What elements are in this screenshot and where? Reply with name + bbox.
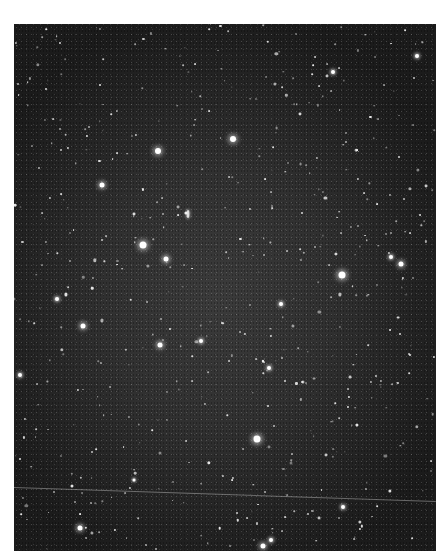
faint-star [88,126,90,128]
faint-star [41,36,43,38]
faint-star [290,462,293,465]
faint-star [202,168,204,170]
faint-star [161,197,163,199]
faint-star [79,513,81,515]
faint-star [102,104,104,106]
faint-star [307,513,309,515]
faint-star [355,149,358,152]
faint-star [264,178,266,180]
faint-star [123,446,125,448]
faint-star [65,58,67,60]
star [399,262,404,267]
faint-star [116,152,118,154]
faint-star [209,28,211,30]
faint-star [69,232,71,234]
faint-star [169,266,171,268]
star [55,297,59,301]
faint-star [410,232,412,234]
faint-star [314,246,316,248]
faint-star [272,532,274,534]
faint-star [17,83,19,85]
star [389,255,393,259]
faint-star [111,497,113,499]
faint-star [195,119,197,121]
faint-star [191,268,193,270]
faint-star [96,27,98,29]
star [261,544,266,549]
faint-star [228,257,230,259]
faint-star [99,404,101,406]
faint-star [239,331,241,333]
faint-star [334,44,336,46]
faint-star [292,77,294,79]
star [254,436,261,443]
faint-star [262,24,264,26]
faint-star [210,24,212,26]
faint-star [163,226,165,228]
faint-star [338,517,340,519]
faint-star [35,429,37,431]
faint-star [425,185,428,188]
faint-star [376,203,378,205]
faint-star [19,458,21,460]
faint-star [253,255,255,257]
faint-star [396,382,398,384]
faint-star [311,73,313,75]
faint-star [132,213,135,216]
faint-star [267,405,269,407]
faint-star [177,214,179,216]
faint-star [201,535,203,537]
faint-star [353,538,355,540]
faint-star [412,277,414,279]
faint-star [330,296,332,298]
faint-star [325,75,328,78]
faint-star [299,248,301,250]
faint-star [99,120,101,122]
faint-star [374,31,376,33]
faint-star [349,375,352,378]
faint-star [232,177,234,179]
faint-star [26,519,28,521]
faint-star [389,329,391,331]
faint-star [299,112,302,115]
faint-star [406,294,408,296]
faint-star [398,156,400,158]
faint-star [272,146,274,148]
faint-star [166,419,168,421]
faint-star [338,67,340,69]
faint-star [372,516,374,518]
faint-star [227,30,229,32]
faint-star [242,448,244,450]
faint-star [177,105,179,107]
faint-star [110,386,112,388]
faint-star [398,115,400,117]
faint-star [317,281,319,283]
faint-star [281,531,283,533]
faint-star [124,492,126,494]
faint-star [270,191,272,193]
faint-star [385,233,387,235]
faint-star [340,232,342,234]
faint-star [64,133,67,136]
faint-star [182,64,184,66]
faint-star [318,517,321,520]
faint-star [218,527,221,530]
star [230,136,236,142]
faint-star [177,206,180,209]
faint-star [345,141,347,143]
faint-star [278,51,280,53]
faint-star [411,537,413,539]
faint-star [201,107,203,109]
faint-star [91,287,94,290]
star [78,526,83,531]
faint-star [287,162,289,164]
faint-star [194,63,196,65]
faint-star [151,429,153,431]
faint-star [297,348,299,350]
star [341,505,345,509]
faint-star [90,502,92,504]
faint-star [305,382,307,384]
faint-star [390,232,392,234]
faint-star [102,58,104,60]
faint-star [390,43,392,45]
